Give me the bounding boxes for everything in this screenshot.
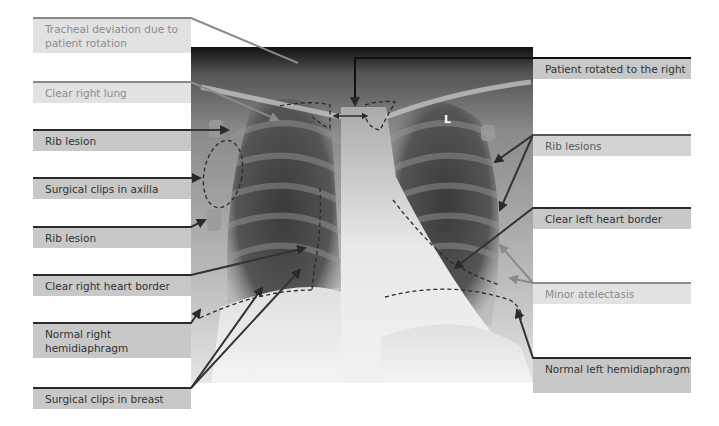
side-marker: L — [444, 113, 451, 126]
label-normal-right-hemidiaphragm: Normal right hemidiaphragm — [33, 322, 191, 358]
label-rib-lesions: Rib lesions — [533, 134, 691, 156]
label-surgical-clips-breast: Surgical clips in breast — [33, 387, 191, 409]
label-tracheal-deviation: Tracheal deviation due to patient rotati… — [33, 17, 191, 53]
label-patient-rotated: Patient rotated to the right — [533, 57, 691, 79]
label-clear-left-heart-border: Clear left heart border — [533, 207, 691, 229]
label-clear-right-lung: Clear right lung — [33, 81, 191, 103]
label-normal-left-hemidiaphragm: Normal left hemidiaphragm — [533, 357, 691, 393]
label-minor-atelectasis: Minor atelectasis — [533, 282, 691, 304]
chest-xray-image: L — [191, 47, 533, 383]
label-clear-right-heart-border: Clear right heart border — [33, 274, 191, 296]
label-rib-lesion-upper: Rib lesion — [33, 129, 191, 151]
label-rib-lesion-lower: Rib lesion — [33, 226, 191, 248]
label-surgical-clips-axilla: Surgical clips in axilla — [33, 177, 191, 199]
